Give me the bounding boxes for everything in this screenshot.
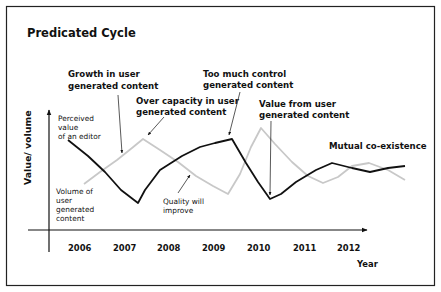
x-axis-label: Year (356, 259, 379, 269)
x-tick-2010: 2010 (247, 243, 270, 253)
x-tick-2012: 2012 (337, 243, 360, 253)
quality-label-line1: Quality will (163, 197, 204, 206)
volume-label-line4: content (56, 214, 84, 223)
volume-label-line2: user (56, 196, 73, 205)
value-from-ugc-label-line1: Value from user (259, 99, 337, 109)
perceived-label-line3: of an editor (58, 132, 102, 141)
perceived-label-line2: value (58, 123, 79, 132)
chart-title: Predicated Cycle (27, 26, 136, 40)
growth-label-line2: generated content (68, 81, 158, 91)
too-much-control-label-line2: generated content (203, 80, 293, 90)
over-capacity-label-line1: Over capacity in user (136, 96, 240, 106)
y-axis-label: Value/ volume (22, 110, 33, 185)
over-capacity-label-line2: generated content (136, 107, 226, 117)
volume-label-line3: generated (56, 205, 94, 214)
perceived-label-line1: Perceived (58, 114, 94, 123)
annotation-mutual-co-existence: Mutual co-existence (329, 141, 427, 151)
annotation-over-capacity: Over capacity in user generated content (136, 96, 240, 117)
x-tick-2009: 2009 (202, 243, 225, 253)
x-tick-2007: 2007 (113, 243, 136, 253)
x-tick-2008: 2008 (157, 243, 180, 253)
volume-label-line1: Volume of (56, 187, 93, 196)
quality-label-line2: improve (163, 206, 194, 215)
growth-label-line1: Growth in user (68, 69, 140, 79)
x-tick-2006: 2006 (68, 243, 91, 253)
annotation-value-from-ugc: Value from user generated content (259, 99, 349, 120)
predicated-cycle-diagram: Predicated Cycle Value/ volume 2006 2007… (0, 0, 441, 292)
annotation-too-much-control: Too much control generated content (203, 69, 293, 90)
too-much-control-label-line1: Too much control (203, 69, 286, 79)
x-tick-2011: 2011 (293, 243, 316, 253)
value-from-ugc-label-line2: generated content (259, 110, 349, 120)
